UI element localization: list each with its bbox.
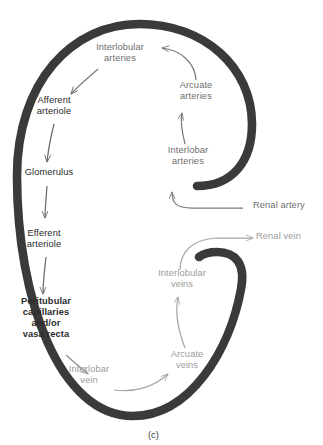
label-peritubular-capillaries: Peritubular capillaries and/or vasa rect… xyxy=(10,296,82,340)
label-interlobar-vein: Interlobar vein xyxy=(58,364,120,386)
arrow-renal-artery-to-interlobar xyxy=(172,192,243,208)
label-afferent-arteriole: Afferent arteriole xyxy=(22,95,86,117)
label-arcuate-arteries: Arcuate arteries xyxy=(165,80,227,102)
arrow-arcuate-to-interlobular xyxy=(162,48,196,80)
arrow-interlobar-to-arcuate xyxy=(181,113,185,144)
label-renal-vein: Renal vein xyxy=(256,231,318,242)
arrow-interlobular-to-afferent xyxy=(71,69,98,94)
arrow-arcuate-to-interlobular-vein xyxy=(177,297,185,348)
arrow-efferent-to-peritubular xyxy=(43,257,46,294)
arrow-interlobar-vein-to-arcuate xyxy=(114,374,168,391)
label-interlobular-veins: Interlobular veins xyxy=(143,268,221,290)
arrow-glomerulus-to-efferent xyxy=(45,186,47,218)
label-interlobar-arteries: Interlobar arteries xyxy=(153,145,223,167)
renal-circulation-svg xyxy=(0,0,323,445)
label-arcuate-veins: Arcuate veins xyxy=(159,349,215,371)
label-interlobular-arteries: Interlobular arteries xyxy=(80,42,160,64)
label-glomerulus: Glomerulus xyxy=(12,167,86,178)
figure-caption: (c) xyxy=(148,430,159,440)
label-efferent-arteriole: Efferent arteriole xyxy=(12,228,76,250)
arrow-afferent-to-glomerulus xyxy=(47,124,54,162)
figure-canvas: Interlobular arteries Arcuate arteries I… xyxy=(0,0,323,445)
label-renal-artery: Renal artery xyxy=(253,200,321,211)
